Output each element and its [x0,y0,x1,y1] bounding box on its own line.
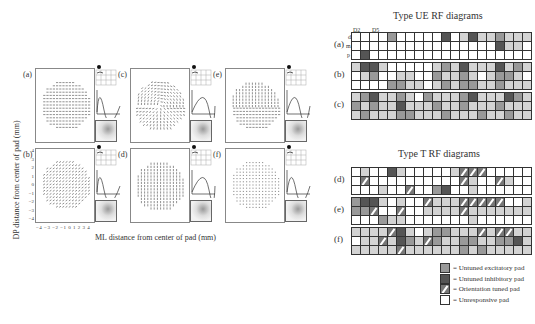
pad-cell [451,168,459,176]
pad-cell [352,237,360,245]
pad-cell [370,237,378,245]
pad-cell [460,42,468,50]
pad-cell [451,33,459,41]
pad-cell [388,63,396,71]
pad-cell [478,81,486,89]
pad-cell [397,198,405,206]
pad-cell [424,51,432,59]
pad-cell [370,33,378,41]
pad-cell [478,228,486,236]
receptive-field-map [285,120,307,142]
pad-cell [370,246,378,254]
receptive-field-map [285,200,307,222]
rf-row-label: (a) [334,39,344,49]
pad-cell [469,237,477,245]
pad-cell [433,216,441,224]
pad-cell [406,168,414,176]
pad-cell [505,63,513,71]
pad-cell [460,102,468,110]
pad-cell [505,102,513,110]
rf-diagram [423,92,460,120]
pad-cell [388,177,396,185]
mini-pad-grid [190,64,212,90]
pad-cell [442,93,450,101]
pad-cell [370,81,378,89]
pad-cell [442,102,450,110]
pad-cell [469,63,477,71]
pad-cell [460,81,468,89]
pad-cell [406,246,414,254]
rf-diagram [495,227,532,255]
rf-diagram [351,92,388,120]
rf-diagram [423,32,460,60]
pad-cell [451,111,459,119]
pad-cell [478,72,486,80]
pad-cell [496,72,504,80]
rf-diagram [495,197,532,225]
pad-cell [460,177,468,185]
pad-cell [397,216,405,224]
pad-cell [496,42,504,50]
pad-cell [406,207,414,215]
pad-cell [415,33,423,41]
legend-swatch [440,284,450,294]
receptive-field-map [190,120,212,142]
rf-diagram [459,227,496,255]
rf-diagram [387,92,424,120]
pad-cell [442,81,450,89]
pad-cell [505,111,513,119]
pad-cell [397,81,405,89]
pad-cell [370,168,378,176]
x-axis-ticks: −4 −3 −2 −1 0 1 2 3 4 [36,225,90,230]
pad-cell [514,111,522,119]
pad-cell [352,228,360,236]
pad-cell [433,177,441,185]
pad-cell [487,102,495,110]
pad-cell [478,93,486,101]
pad-cell [496,246,504,254]
legend-label: = Orientation tuned pad [453,285,520,293]
pad-cell [496,63,504,71]
pad-cell [379,81,387,89]
pad-cell [505,246,513,254]
y-tick: −4 [26,216,34,221]
tuning-curve [95,168,121,202]
pad-cell [388,207,396,215]
rf-diagram [351,227,388,255]
pad-cell [388,51,396,59]
pad-cell [433,186,441,194]
pad-cell [487,93,495,101]
pad-cell [406,177,414,185]
pad-cell [460,93,468,101]
pad-cell [442,198,450,206]
pad-cell [379,186,387,194]
pad-cell [424,228,432,236]
legend-label: = Unresponsive pad [453,295,509,303]
pad-cell [379,237,387,245]
pad-cell [505,216,513,224]
pad-cell [370,216,378,224]
pad-cell [433,93,441,101]
pad-cell [370,228,378,236]
pad-cell [496,51,504,59]
rf-diagram [351,197,388,225]
pad-cell [424,63,432,71]
pad-cell [514,186,522,194]
pad-cell [370,207,378,215]
rf-row-label: (f) [334,234,343,244]
legend-label: = Untuned inhibitory pad [453,274,524,282]
pad-cell [460,216,468,224]
pad-cell [352,198,360,206]
legend-swatch [440,295,450,305]
pad-cell [505,33,513,41]
pad-cell [379,198,387,206]
pad-cell [424,237,432,245]
rf-diagram [387,32,424,60]
pad-cell [433,42,441,50]
pad-cell [379,33,387,41]
pad-cell [397,111,405,119]
rf-diagram [351,62,388,90]
pad-cell [415,237,423,245]
pad-cell [514,198,522,206]
rf-diagram [423,62,460,90]
